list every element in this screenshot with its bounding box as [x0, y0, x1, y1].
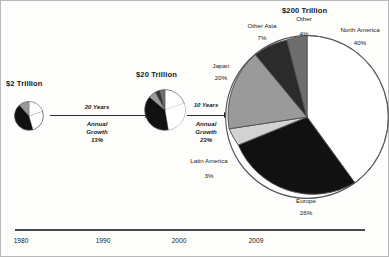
pie-1980: [14, 101, 44, 131]
label-japan-name: Japan: [205, 63, 237, 70]
transition-2-growth-line1: Annual: [183, 121, 229, 128]
figure-frame: $2 Trillion 20 Years Annual Growth 13% $…: [0, 0, 389, 257]
transition-1-growth-line1: Annual: [67, 121, 127, 128]
stage-1980-title: $2 Trillion: [6, 80, 43, 89]
pie-2009: [224, 34, 389, 200]
label-europe-name: Europe: [286, 198, 326, 205]
label-north-america-pct: 40%: [332, 40, 388, 47]
label-japan-pct: 20%: [205, 75, 237, 82]
timeline-tick-2009: 2009: [240, 237, 272, 244]
transition-2-growth-line2: Growth: [183, 129, 229, 136]
timeline-tick-2000: 2000: [163, 237, 195, 244]
timeline-tick-1990: 1990: [87, 237, 119, 244]
label-latin-america-pct: 3%: [182, 173, 236, 180]
transition-1-growth-rate: 13%: [67, 137, 127, 144]
transition-2-duration: 10 Years: [183, 102, 229, 109]
pie-2000: [144, 89, 186, 131]
label-other-asia-name: Other Asia: [241, 23, 283, 30]
label-latin-america-name: Latin America: [182, 158, 236, 165]
label-north-america-name: North America: [332, 27, 388, 34]
stage-2000-title: $20 Trillion: [136, 71, 177, 80]
transition-2-growth-rate: 23%: [183, 137, 229, 144]
arrow-2000-to-2009-line: [187, 115, 225, 116]
timeline-axis: [15, 229, 365, 231]
transition-1-growth-line2: Growth: [67, 129, 127, 136]
label-other-asia-pct: 7%: [241, 35, 283, 42]
label-other-pct: 4%: [289, 31, 319, 38]
label-other-name: Other: [289, 16, 319, 23]
timeline-tick-1980: 1980: [5, 237, 37, 244]
arrow-1980-to-2000-line: [50, 115, 146, 116]
transition-1-duration: 20 Years: [67, 104, 127, 111]
label-europe-pct: 26%: [286, 210, 326, 217]
